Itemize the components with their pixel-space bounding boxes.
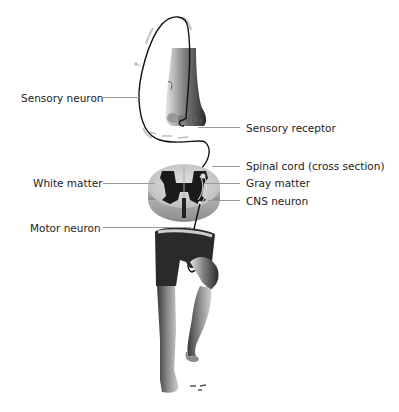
leader-line-sensory-receptor [198,127,240,128]
leader-line-white-matter [103,183,155,184]
reflex-arc-illustration [0,0,399,412]
label-sensory-receptor: Sensory receptor [246,122,336,134]
leader-line-motor-neuron [103,227,191,228]
leader-line-gray-matter [204,183,240,184]
spinal-cord-illustration [148,164,220,222]
label-motor-neuron: Motor neuron [30,222,101,234]
leader-line-spinal-cord [212,166,240,167]
label-gray-matter: Gray matter [246,177,310,189]
label-sensory-neuron: Sensory neuron [21,92,103,104]
label-spinal-cord: Spinal cord (cross section) [246,160,385,172]
label-cns-neuron: CNS neuron [246,195,308,207]
label-white-matter: White matter [33,177,103,189]
leader-line-cns-neuron [208,200,240,201]
legs-illustration [155,228,219,393]
leader-line-sensory-neuron [103,97,139,98]
foot-illustration [150,48,206,138]
